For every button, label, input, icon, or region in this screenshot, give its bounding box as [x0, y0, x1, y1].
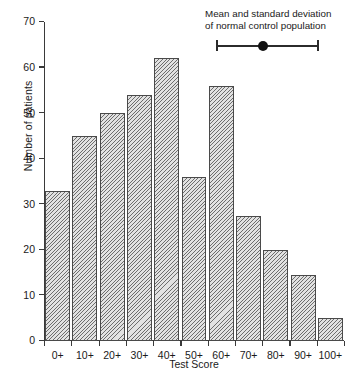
bar [263, 250, 288, 341]
y-tick: 40 [39, 158, 44, 159]
bar [100, 113, 125, 341]
y-tick: 20 [39, 249, 44, 250]
error-bar-cap-left [216, 40, 218, 51]
plot-area: 010203040506070 0+10+20+30+40+50+60+70+8… [44, 22, 344, 341]
x-tick [44, 341, 45, 346]
x-tick [235, 341, 236, 346]
y-tick-label: 0 [29, 334, 35, 346]
bar [209, 86, 234, 341]
legend-annotation: Mean and standard deviation of normal co… [205, 8, 354, 53]
error-bar-cap-right [317, 40, 319, 51]
y-tick: 30 [39, 203, 44, 204]
x-tick [99, 341, 100, 346]
bar [318, 318, 343, 341]
x-tick [153, 341, 154, 346]
x-tick [262, 341, 263, 346]
histogram-figure: Number of patients 010203040506070 0+10+… [0, 0, 354, 381]
x-tick [208, 341, 209, 346]
bar [154, 58, 179, 341]
y-tick-label: 10 [23, 289, 35, 301]
x-tick [344, 341, 345, 346]
y-tick-label: 20 [23, 243, 35, 255]
annotation-line-2: of normal control population [205, 20, 354, 32]
y-tick: 50 [39, 112, 44, 113]
y-tick: 70 [39, 21, 44, 22]
bar [127, 95, 152, 341]
y-tick-label: 50 [23, 107, 35, 119]
mean-dot-icon [258, 41, 268, 51]
y-tick: 10 [39, 294, 44, 295]
x-tick [126, 341, 127, 346]
x-tick [289, 341, 290, 346]
annotation-line-1: Mean and standard deviation [205, 8, 354, 20]
x-tick [180, 341, 181, 346]
y-tick-label: 60 [23, 61, 35, 73]
x-tick [71, 341, 72, 346]
bar [45, 191, 70, 341]
bar [291, 275, 316, 341]
y-tick-label: 70 [23, 15, 35, 27]
bar [182, 177, 207, 341]
x-axis-title: Test Score [44, 358, 344, 370]
y-tick-label: 40 [23, 152, 35, 164]
error-bar-icon [214, 39, 320, 53]
x-tick [317, 341, 318, 346]
y-tick: 60 [39, 66, 44, 67]
y-tick-label: 30 [23, 198, 35, 210]
bar [236, 216, 261, 341]
bar [72, 136, 97, 341]
